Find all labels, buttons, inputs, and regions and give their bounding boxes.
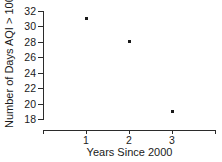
y-axis-line (43, 11, 44, 120)
x-axis-left-cap (43, 130, 44, 134)
x-axis-title: Years Since 2000 (43, 146, 216, 158)
y-axis-tick (38, 26, 43, 27)
y-axis-tick (38, 119, 43, 120)
y-axis-tick (38, 104, 43, 105)
y-axis-tick (38, 73, 43, 74)
y-axis-tick (38, 42, 43, 43)
data-point (85, 17, 88, 20)
y-axis-tick (38, 11, 43, 12)
y-axis-tick (38, 57, 43, 58)
y-axis-tick (38, 88, 43, 89)
x-axis-right-cap (215, 130, 216, 134)
scatter-chart: 1820222426283032 123 Years Since 2000 Nu… (0, 0, 222, 162)
data-point (128, 40, 131, 43)
x-axis-tick-label: 2 (114, 135, 144, 146)
y-axis-title: Number of Days AQI > 100 (3, 0, 15, 128)
x-axis-tick-label: 3 (157, 135, 187, 146)
data-point (171, 110, 174, 113)
x-axis-tick-label: 1 (71, 135, 101, 146)
